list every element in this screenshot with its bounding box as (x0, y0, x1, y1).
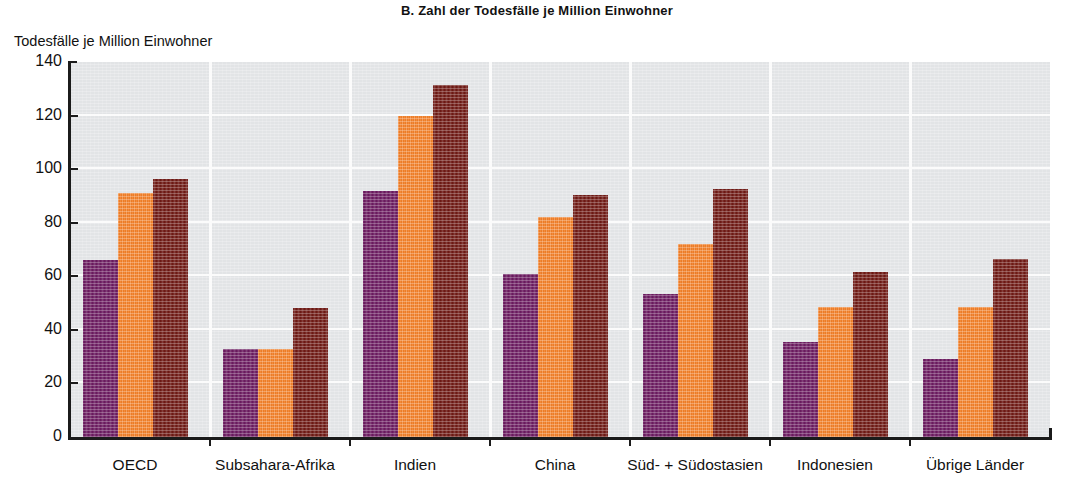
bar (923, 359, 958, 437)
y-tick-mark-80 (69, 222, 78, 224)
bar (783, 342, 818, 437)
y-tick-mark-60 (69, 275, 78, 277)
x-tick-mark-5 (769, 437, 771, 446)
y-tick-mark-20 (69, 382, 78, 384)
y-tick-label: 40 (44, 321, 62, 337)
y-tick-label: 60 (44, 267, 62, 283)
bar (958, 307, 993, 437)
gridline-y-120 (70, 114, 1050, 116)
chart-figure: B. Zahl der Todesfälle je Million Einwoh… (0, 0, 1074, 500)
bar-grain (678, 244, 713, 437)
x-tick-label-indien: Indien (394, 456, 436, 474)
y-tick-label: 20 (44, 374, 62, 390)
x-tick-label-indonesien: Indonesien (797, 456, 873, 474)
bar (993, 259, 1028, 437)
y-tick-mark-120 (69, 115, 78, 117)
bar (538, 217, 573, 437)
bar (713, 189, 748, 437)
bar-grain (643, 294, 678, 437)
bar-grain (363, 191, 398, 437)
bar (818, 307, 853, 437)
bar (223, 349, 258, 437)
group-separator-1 (209, 62, 212, 437)
bar-grain (398, 116, 433, 437)
bar-grain (433, 85, 468, 437)
bar (293, 308, 328, 437)
bar-grain (223, 349, 258, 437)
group-separator-4 (629, 62, 632, 437)
bar (398, 116, 433, 437)
bar-grain (258, 349, 293, 437)
x-tick-label-s-d-s-dostasien: Süd- + Südostasien (627, 456, 763, 474)
bar-grain (958, 307, 993, 437)
bar-grain (83, 260, 118, 437)
y-tick-label: 80 (44, 214, 62, 230)
bar (258, 349, 293, 437)
y-tick-label: 120 (35, 107, 62, 123)
bar (643, 294, 678, 437)
y-tick-mark-100 (69, 168, 78, 170)
bar (118, 193, 153, 437)
x-tick-mark-1 (209, 437, 211, 446)
bar-grain (818, 307, 853, 437)
bar-grain (993, 259, 1028, 437)
bar (363, 191, 398, 437)
x-axis-end-cap (1049, 428, 1052, 440)
x-tick-mark-4 (629, 437, 631, 446)
bar-grain (713, 189, 748, 437)
y-axis-title: Todesfälle je Million Einwohner (14, 33, 212, 49)
y-tick-label: 140 (35, 53, 62, 69)
bar-grain (503, 274, 538, 437)
bar-grain (783, 342, 818, 437)
x-tick-label-brige-l-nder: Übrige Länder (926, 456, 1024, 474)
group-separator-3 (489, 62, 492, 437)
x-tick-mark-2 (349, 437, 351, 446)
bar-grain (853, 272, 888, 437)
y-tick-label: 0 (53, 428, 62, 444)
bar-grain (573, 195, 608, 437)
bar (503, 274, 538, 437)
bar-grain (118, 193, 153, 437)
bar-grain (923, 359, 958, 437)
group-separator-6 (909, 62, 912, 437)
bar-grain (153, 179, 188, 437)
bar (678, 244, 713, 437)
x-tick-label-oecd: OECD (113, 456, 158, 474)
group-separator-2 (349, 62, 352, 437)
chart-title: B. Zahl der Todesfälle je Million Einwoh… (0, 3, 1074, 18)
y-axis-top-cap (68, 61, 77, 63)
group-separator-5 (769, 62, 772, 437)
bar (83, 260, 118, 437)
y-tick-label: 100 (35, 160, 62, 176)
plot-area (70, 62, 1050, 437)
bar-grain (293, 308, 328, 437)
bar (573, 195, 608, 437)
bar (433, 85, 468, 437)
bar-grain (538, 217, 573, 437)
x-axis-line (68, 437, 1052, 440)
bar (153, 179, 188, 437)
x-tick-mark-6 (909, 437, 911, 446)
bar (853, 272, 888, 437)
x-tick-mark-3 (489, 437, 491, 446)
y-tick-mark-40 (69, 329, 78, 331)
gridline-y-100 (70, 167, 1050, 169)
x-tick-label-china: China (535, 456, 576, 474)
x-tick-label-subsahara-afrika: Subsahara-Afrika (215, 456, 335, 474)
